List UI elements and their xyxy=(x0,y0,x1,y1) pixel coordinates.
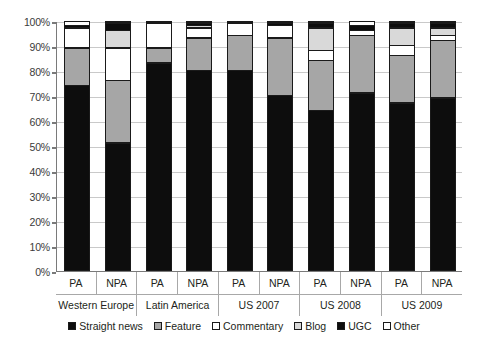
legend-label: Other xyxy=(394,320,420,332)
segment-divider xyxy=(186,25,212,26)
category-label-pa: PA xyxy=(137,272,178,294)
segment-feature xyxy=(105,81,131,144)
segment-divider xyxy=(146,22,172,23)
group-label-western-europe: Western Europe xyxy=(56,294,137,316)
segment-divider xyxy=(389,22,415,23)
segment-straight-news xyxy=(267,96,293,271)
group-label-us-2007: US 2007 xyxy=(219,294,300,316)
segment-divider xyxy=(227,35,253,36)
segment-feature xyxy=(308,61,334,111)
y-axis-tick-label: 0% xyxy=(4,266,50,278)
segment-feature xyxy=(146,49,172,64)
segment-commentary xyxy=(146,24,172,49)
category-row-pa-npa: PANPAPANPAPANPAPANPAPANPA xyxy=(56,272,462,295)
segment-divider xyxy=(64,85,90,86)
legend-item-commentary[interactable]: Commentary xyxy=(212,320,283,332)
category-row-groups: Western EuropeLatin AmericaUS 2007US 200… xyxy=(56,294,462,316)
segment-divider xyxy=(267,95,293,96)
segment-divider xyxy=(308,22,334,23)
bar-latin-america-npa[interactable] xyxy=(186,21,212,271)
segment-divider xyxy=(64,47,90,48)
segment-straight-news xyxy=(308,111,334,271)
bar-us-2009-pa[interactable] xyxy=(389,21,415,271)
y-axis-tick-label: 10% xyxy=(4,241,50,253)
swatch-other-icon xyxy=(383,322,391,330)
category-label-npa: NPA xyxy=(260,272,301,294)
swatch-feature-icon xyxy=(154,322,162,330)
legend-item-feature[interactable]: Feature xyxy=(154,320,201,332)
segment-straight-news xyxy=(146,64,172,272)
segment-feature xyxy=(389,56,415,104)
segment-divider xyxy=(64,27,90,28)
bar-latin-america-pa[interactable] xyxy=(146,21,172,271)
segment-divider xyxy=(308,110,334,111)
segment-divider xyxy=(430,97,456,98)
legend-label: Commentary xyxy=(223,320,283,332)
bar-western-europe-npa[interactable] xyxy=(105,21,131,271)
y-axis-tick-label: 80% xyxy=(4,66,50,78)
segment-commentary xyxy=(105,49,131,82)
segment-straight-news xyxy=(105,144,131,272)
swatch-straight-news-icon xyxy=(68,322,76,330)
segment-divider xyxy=(430,40,456,41)
y-axis-tick-label: 50% xyxy=(4,141,50,153)
segment-divider xyxy=(146,47,172,48)
segment-blog xyxy=(105,31,131,49)
legend-label: Blog xyxy=(305,320,326,332)
bar-us-2009-npa[interactable] xyxy=(430,21,456,271)
y-axis-tick-label: 100% xyxy=(4,16,50,28)
segment-divider xyxy=(186,37,212,38)
bar-us-2008-pa[interactable] xyxy=(308,21,334,271)
legend-item-straight-news[interactable]: Straight news xyxy=(68,320,143,332)
legend-label: Straight news xyxy=(79,320,143,332)
bar-us-2008-npa[interactable] xyxy=(349,21,375,271)
segment-divider xyxy=(267,25,293,26)
category-label-pa: PA xyxy=(300,272,341,294)
group-label-latin-america: Latin America xyxy=(137,294,218,316)
segment-divider xyxy=(349,25,375,26)
segment-divider xyxy=(389,27,415,28)
category-label-pa: PA xyxy=(382,272,423,294)
bar-us-2007-npa[interactable] xyxy=(267,21,293,271)
group-label-us-2009: US 2009 xyxy=(382,294,462,316)
category-axis: PANPAPANPAPANPAPANPAPANPA Western Europe… xyxy=(56,272,462,316)
segment-divider xyxy=(105,47,131,48)
segment-divider xyxy=(186,70,212,71)
segment-divider xyxy=(64,25,90,26)
segment-divider xyxy=(389,45,415,46)
segment-divider xyxy=(349,35,375,36)
bar-western-europe-pa[interactable] xyxy=(64,21,90,271)
legend-label: Feature xyxy=(165,320,201,332)
plot-area xyxy=(56,22,462,272)
segment-divider xyxy=(349,30,375,31)
category-label-npa: NPA xyxy=(178,272,219,294)
bars-layer xyxy=(57,22,462,271)
category-label-npa: NPA xyxy=(422,272,462,294)
segment-divider xyxy=(186,22,212,23)
bar-us-2007-pa[interactable] xyxy=(227,21,253,271)
segment-divider xyxy=(308,60,334,61)
legend-item-blog[interactable]: Blog xyxy=(294,320,326,332)
segment-divider xyxy=(349,92,375,93)
segment-blog xyxy=(308,29,334,52)
segment-straight-news xyxy=(430,99,456,272)
segment-feature xyxy=(227,36,253,71)
segment-feature xyxy=(349,36,375,94)
swatch-blog-icon xyxy=(294,322,302,330)
segment-divider xyxy=(389,102,415,103)
y-axis-tick-label: 70% xyxy=(4,91,50,103)
legend-item-ugc[interactable]: UGC xyxy=(337,320,371,332)
y-axis-tick-label: 60% xyxy=(4,116,50,128)
segment-straight-news xyxy=(227,71,253,271)
legend-item-other[interactable]: Other xyxy=(383,320,420,332)
segment-divider xyxy=(186,27,212,28)
chart-legend: Straight newsFeatureCommentaryBlogUGCOth… xyxy=(0,320,488,332)
segment-divider xyxy=(227,70,253,71)
swatch-ugc-icon xyxy=(337,322,345,330)
category-label-pa: PA xyxy=(56,272,97,294)
legend-label: UGC xyxy=(348,320,371,332)
segment-straight-news xyxy=(64,86,90,271)
segment-straight-news xyxy=(186,71,212,271)
segment-divider xyxy=(389,55,415,56)
segment-straight-news xyxy=(349,94,375,272)
